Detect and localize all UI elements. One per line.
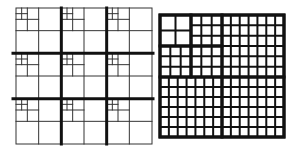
block-border-top-left-d [191,46,222,77]
right-block-grid [160,15,284,137]
diagram-canvas [0,0,298,152]
left-quadtree-grid [13,8,153,144]
block-border-top-left-b [191,15,222,46]
block-border-top-left-c [160,46,191,77]
